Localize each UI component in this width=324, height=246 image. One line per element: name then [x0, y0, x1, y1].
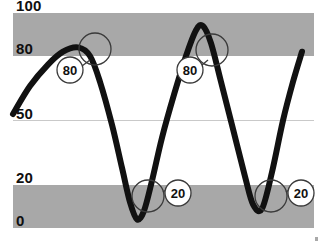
callout-80-ascending-label: 80 — [183, 63, 197, 78]
corner-artifact — [315, 237, 318, 241]
chart-plot-area: 80802020 — [0, 0, 324, 246]
y-tick-label-50: 50 — [16, 106, 33, 121]
y-tick-label-0: 0 — [16, 213, 25, 228]
y-tick-label-80: 80 — [16, 41, 33, 56]
callout-20-first-label: 20 — [171, 186, 185, 201]
y-tick-label-100: 100 — [16, 0, 42, 13]
callout-20-second-label: 20 — [294, 186, 308, 201]
callout-80-descending-label: 80 — [63, 63, 77, 78]
y-tick-label-20: 20 — [16, 170, 33, 185]
upper-threshold-band — [13, 13, 314, 56]
threshold-crossing-chart: 80802020 1008050200 — [0, 0, 324, 246]
